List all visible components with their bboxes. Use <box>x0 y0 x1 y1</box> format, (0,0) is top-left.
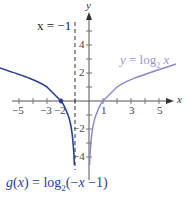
asymptote-label: x = −1 <box>37 18 71 34</box>
y-tick-label: 4 <box>79 38 85 50</box>
x-tick-label: 1 <box>101 104 107 116</box>
x-tick-label: 5 <box>157 104 163 116</box>
x-tick-label: 3 <box>129 104 135 116</box>
chart-canvas <box>0 0 189 198</box>
x-tick-label: −3 <box>40 104 52 116</box>
x-tick-label: −5 <box>12 104 24 116</box>
y-tick-label: 2 <box>79 66 85 78</box>
f-label: yy = log = log2 x <box>120 52 169 70</box>
x-axis-arrow-icon <box>166 98 174 104</box>
x-intercept-point <box>59 99 64 104</box>
x-axis-label: x <box>177 93 182 105</box>
y-axis-arrow-icon <box>86 12 92 20</box>
g-label: g(x) = log2(−x −1) <box>6 175 108 193</box>
y-axis-label: y <box>86 0 91 11</box>
y-tick-label: −4 <box>73 150 85 162</box>
x-tick-label: −2 <box>54 104 66 116</box>
y-tick-label: −2 <box>73 122 85 134</box>
